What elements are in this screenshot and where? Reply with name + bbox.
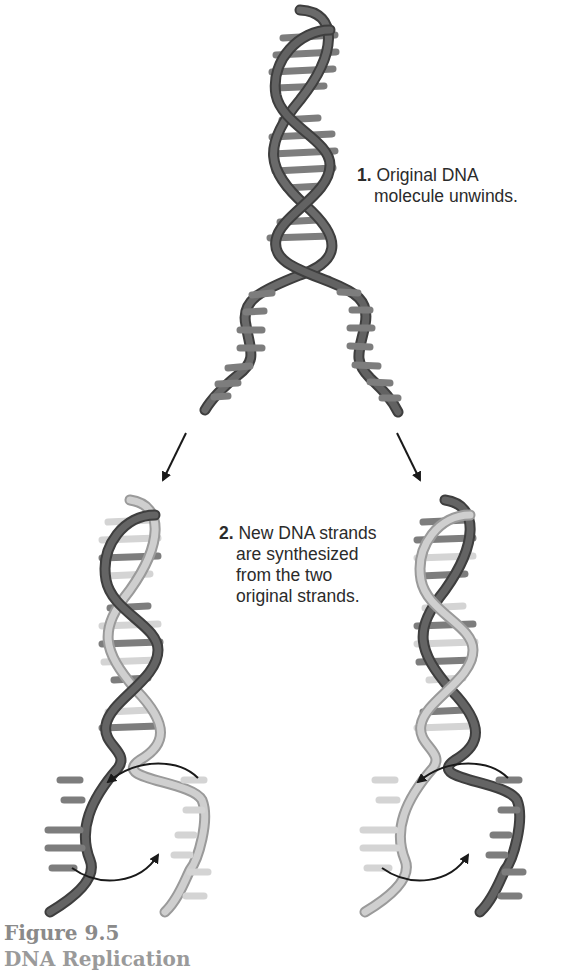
arrow-to-right-daughter <box>397 433 420 480</box>
right-synthesis-arrow-lower <box>382 855 468 880</box>
figure-caption-subtitle: DNA Replication <box>4 947 190 971</box>
step-2-line-2: are synthesized <box>219 544 377 565</box>
step-2-label: 2. New DNA strands are synthesized from … <box>219 523 377 607</box>
step-1-line-1: Original DNA <box>376 165 478 185</box>
step-2-line-3: from the two <box>219 565 377 586</box>
figure-caption-title: Figure 9.5 <box>4 921 190 945</box>
step-1-label: 1. Original DNA molecule unwinds. <box>357 165 518 207</box>
step-2-line-4: original strands. <box>219 586 377 607</box>
figure-caption: Figure 9.5 DNA Replication <box>4 921 190 971</box>
step-1-line-2: molecule unwinds. <box>357 186 518 207</box>
arrow-to-left-daughter <box>163 433 186 480</box>
step-2-number: 2. <box>219 523 234 543</box>
step-1-number: 1. <box>357 165 372 185</box>
daughter-dna-left <box>48 500 208 912</box>
daughter-dna-right <box>363 500 523 912</box>
original-dna-molecule <box>205 10 398 412</box>
step-2-line-1: New DNA strands <box>238 523 376 543</box>
